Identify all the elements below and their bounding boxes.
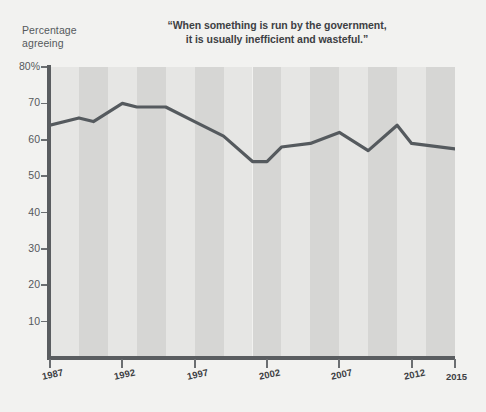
y-tick-mark [41, 248, 47, 250]
x-axis-line [47, 356, 455, 360]
x-tick-label: 1992 [113, 367, 136, 382]
y-tick-label: 40 [6, 206, 40, 218]
y-tick-mark [41, 139, 47, 141]
y-tick-label: 50 [6, 169, 40, 181]
chart-title-line-2: it is usually inefficient and wasteful.” [152, 33, 402, 47]
x-tick-label: 2002 [258, 367, 281, 382]
plot-area [50, 67, 455, 358]
x-tick-label: 2007 [330, 367, 353, 382]
series-line-percentage-agreeing [50, 103, 455, 161]
x-tick-mark [266, 359, 268, 368]
x-tick-label: 2015 [446, 371, 467, 382]
y-tick-mark [41, 321, 47, 323]
y-tick-mark [41, 103, 47, 105]
x-tick-mark [121, 359, 123, 368]
data-line-svg [50, 67, 455, 358]
chart-title-line-1: “When something is run by the government… [152, 19, 402, 33]
x-tick-mark [411, 359, 413, 368]
y-tick-label: 80% [6, 60, 40, 72]
x-tick-label: 1997 [186, 367, 209, 382]
x-tick-label: 1987 [41, 367, 64, 382]
x-tick-label: 2012 [403, 367, 426, 382]
y-tick-mark [41, 66, 47, 68]
chart-title: “When something is run by the government… [152, 19, 402, 46]
x-tick-mark [338, 359, 340, 368]
y-tick-mark [41, 175, 47, 177]
y-tick-label: 70 [6, 96, 40, 108]
chart-container: Percentage agreeing “When something is r… [0, 0, 486, 412]
y-tick-mark [41, 284, 47, 286]
x-tick-mark [194, 359, 196, 368]
x-tick-mark [49, 359, 51, 368]
y-tick-label: 10 [6, 315, 40, 327]
y-axis-line [47, 65, 51, 360]
y-axis-title: Percentage agreeing [22, 24, 77, 50]
y-tick-mark [41, 212, 47, 214]
y-tick-label: 30 [6, 242, 40, 254]
y-tick-label: 60 [6, 133, 40, 145]
x-tick-mark [454, 359, 456, 368]
y-tick-label: 20 [6, 278, 40, 290]
